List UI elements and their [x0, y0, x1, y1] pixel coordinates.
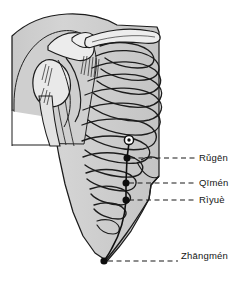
acupoint-label-riyue: Rìyuè — [199, 195, 225, 205]
nipple-marker — [124, 135, 133, 144]
anatomy-illustration — [0, 0, 246, 288]
acupoint-zhangmen — [100, 257, 107, 264]
acupoint-qimen — [123, 180, 130, 187]
acupoint-riyue — [123, 197, 130, 204]
acupoint-label-zhangmen: Zhāngmén — [181, 251, 228, 261]
anatomical-figure: Rǔgēn Qīmén Rìyuè Zhāngmén — [0, 0, 246, 288]
acupoint-rugen — [124, 155, 131, 162]
acupoint-label-rugen: Rǔgēn — [199, 153, 228, 163]
acupoint-label-qimen: Qīmén — [199, 178, 229, 188]
